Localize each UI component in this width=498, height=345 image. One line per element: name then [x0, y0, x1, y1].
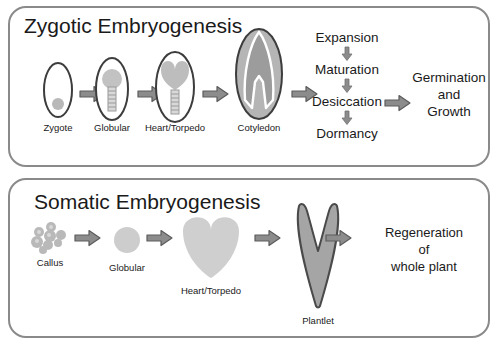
- outcome-line-1: Germination: [412, 69, 486, 86]
- stage-zygote: [36, 60, 80, 120]
- chain-item-dormancy: Dormancy: [316, 126, 378, 141]
- callus-cluster-icon: [29, 222, 71, 256]
- zygote-embryo-icon: [36, 60, 80, 120]
- arrow-heart-to-plantlet: [255, 230, 281, 246]
- arrow-heart-to-cotyledon: [203, 86, 229, 102]
- outcome-line-3: Growth: [412, 103, 486, 120]
- stage-cotyledon: [228, 26, 290, 122]
- arrow-callus-to-globular: [75, 230, 101, 246]
- stage-label-heart-torpedo-somatic: Heart/Torpedo: [181, 285, 241, 296]
- stage-label-heart-torpedo-zygotic: Heart/Torpedo: [145, 122, 205, 133]
- arrow-desiccation-to-dormancy: [341, 111, 353, 125]
- panel-title-zygotic: Zygotic Embryogenesis: [24, 14, 242, 38]
- outcome-line-2: of: [385, 241, 463, 258]
- globular-embryo-icon: [112, 225, 142, 255]
- heart-torpedo-embryo-icon: [178, 212, 244, 280]
- globular-embryo-icon: [88, 56, 136, 122]
- stage-globular-somatic: [112, 225, 142, 255]
- stage-label-zygote: Zygote: [43, 122, 72, 133]
- cotyledon-embryo-icon: [228, 26, 290, 122]
- outcome-regeneration-of-whole-plant: Regeneration of whole plant: [385, 224, 463, 275]
- stage-heart-torpedo-zygotic: [147, 50, 203, 124]
- outcome-line-2: and: [412, 86, 486, 103]
- stage-globular-zygotic: [88, 56, 136, 122]
- arrow-expansion-to-maturation: [341, 47, 353, 61]
- stage-callus: [29, 222, 71, 256]
- stage-plantlet: [291, 203, 345, 311]
- chain-item-expansion: Expansion: [315, 30, 378, 45]
- arrow-desiccation-to-germination: [385, 95, 411, 111]
- stage-label-globular-zygotic: Globular: [94, 122, 130, 133]
- stage-label-plantlet: Plantlet: [302, 315, 334, 326]
- plantlet-icon: [291, 203, 345, 311]
- stage-label-cotyledon: Cotyledon: [238, 122, 281, 133]
- arrow-plantlet-to-regeneration: [326, 230, 352, 246]
- outcome-line-3: whole plant: [385, 258, 463, 275]
- panel-title-somatic: Somatic Embryogenesis: [34, 190, 260, 214]
- stage-heart-torpedo-somatic: [178, 212, 244, 280]
- heart-torpedo-embryo-icon: [147, 50, 203, 124]
- chain-item-desiccation: Desiccation: [312, 94, 382, 109]
- chain-item-maturation: Maturation: [315, 62, 379, 77]
- stage-label-globular-somatic: Globular: [109, 262, 145, 273]
- outcome-germination-and-growth: Germination and Growth: [412, 69, 486, 120]
- arrow-globular-to-heart-somatic: [147, 230, 173, 246]
- stage-label-callus: Callus: [37, 257, 63, 268]
- arrow-maturation-to-desiccation: [341, 79, 353, 93]
- outcome-line-1: Regeneration: [385, 224, 463, 241]
